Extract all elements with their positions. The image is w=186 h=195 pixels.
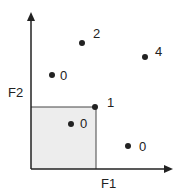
point-label: 0 bbox=[60, 69, 67, 82]
point-1 bbox=[79, 40, 85, 46]
y-axis-label: F2 bbox=[8, 86, 23, 99]
point-3 bbox=[49, 72, 55, 78]
point-2 bbox=[142, 54, 148, 60]
point-label: 0 bbox=[139, 140, 146, 153]
point-label: 1 bbox=[107, 96, 114, 109]
point-5 bbox=[68, 121, 74, 127]
point-label: 4 bbox=[155, 45, 162, 58]
point-label: 0 bbox=[80, 117, 87, 130]
point-6 bbox=[125, 143, 131, 149]
y-axis-arrow-icon bbox=[27, 12, 35, 21]
x-axis-label: F1 bbox=[101, 177, 116, 190]
point-4 bbox=[92, 104, 98, 110]
x-axis-arrow-icon bbox=[164, 165, 173, 173]
point-label: 2 bbox=[93, 27, 100, 40]
